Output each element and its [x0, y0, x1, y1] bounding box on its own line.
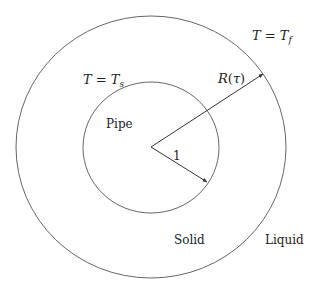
inner-condition-label: T = Ts: [83, 72, 125, 89]
liquid-region-label: Liquid: [265, 233, 304, 247]
pipe-solidification-diagram: T = Tf T = Ts R(τ) 1 Pipe Solid Liquid: [0, 0, 317, 294]
outer-radius-arrow: [151, 74, 263, 147]
pipe-region-label: Pipe: [106, 117, 133, 131]
outer-condition-label: T = Tf: [252, 28, 294, 45]
solid-region-label: Solid: [174, 233, 205, 247]
outer-radius-label: R(τ): [217, 71, 245, 86]
inner-radius-label: 1: [173, 149, 181, 163]
